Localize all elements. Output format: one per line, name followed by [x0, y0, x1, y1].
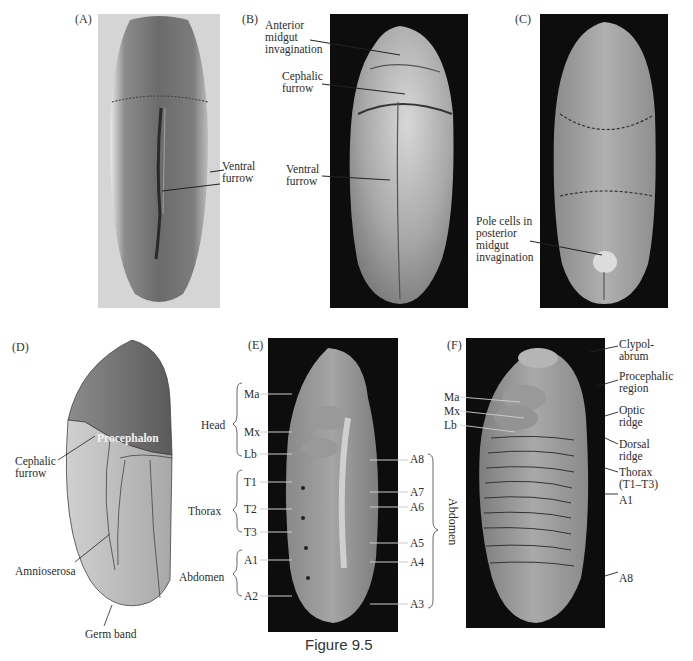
optic-ridge-label: Optic ridge	[619, 404, 645, 428]
panel-a-label: (A)	[75, 12, 92, 27]
pole-cells-label: Pole cells in posterior midgut invaginat…	[476, 215, 534, 263]
segment-ma-f: Ma	[444, 391, 459, 403]
brackets-right-e	[370, 450, 440, 620]
leader-lines-d	[50, 420, 120, 630]
leader-line-a	[210, 167, 224, 175]
panel-e-label: (E)	[248, 338, 263, 353]
a8-label-f: A8	[619, 572, 633, 584]
panel-c-label: (C)	[515, 12, 531, 27]
procephalic-region-label: Procephalic region	[619, 370, 673, 394]
ventral-furrow-label-a: Ventral furrow	[222, 160, 255, 184]
panel-a-image	[98, 14, 220, 308]
panel-b-label: (B)	[242, 12, 258, 27]
leader-line-c	[530, 236, 610, 266]
a1-label-f: A1	[619, 494, 633, 506]
group-label-head: Head	[201, 419, 225, 431]
brackets-left-e	[232, 380, 292, 610]
leader-lines-b	[300, 30, 420, 200]
embryo-a-illustration	[98, 14, 220, 308]
group-label-thorax: Thorax	[188, 505, 221, 517]
group-label-abdomen-left: Abdomen	[179, 571, 224, 583]
figure-caption: Figure 9.5	[305, 636, 373, 653]
dorsal-ridge-label: Dorsal ridge	[619, 438, 650, 462]
panel-d-label: (D)	[12, 340, 29, 355]
segment-mx-f: Mx	[444, 405, 460, 417]
clypolabrum-label: Clypol- abrum	[619, 338, 654, 362]
thorax-t1-t3-label: Thorax (T1–T3)	[619, 466, 658, 490]
leader-lines-f	[460, 340, 620, 580]
segment-lb-f: Lb	[444, 419, 457, 431]
group-label-abdomen-right: Abdomen	[445, 498, 460, 545]
